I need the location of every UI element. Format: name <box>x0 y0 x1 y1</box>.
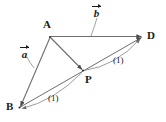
vector-arrow-a-icon <box>20 45 29 50</box>
vector-arrow-b-icon <box>92 4 101 9</box>
segment-b-to-d <box>20 38 142 108</box>
vector-glyph-b: b <box>92 8 101 19</box>
vector-label-b: b <box>92 4 101 19</box>
point-marker-p <box>82 69 84 71</box>
segment-a-to-p <box>51 38 83 70</box>
point-label-a: A <box>43 19 51 30</box>
arc-p-to-b <box>22 73 82 109</box>
leader-line-vector-b <box>91 18 97 36</box>
ratio-label-bp: (1) <box>48 94 59 103</box>
point-marker-a <box>49 36 51 38</box>
vector-geometry-figure: A D B P a b (1) (1) <box>0 0 166 122</box>
ratio-label-pd: (1) <box>113 56 124 65</box>
point-label-p: P <box>85 74 92 85</box>
point-label-b: B <box>6 101 13 112</box>
point-label-d: D <box>147 30 155 41</box>
figure-canvas <box>0 0 166 122</box>
vector-glyph-a: a <box>20 49 29 60</box>
vector-label-a: a <box>20 45 29 60</box>
point-marker-b <box>18 106 20 108</box>
